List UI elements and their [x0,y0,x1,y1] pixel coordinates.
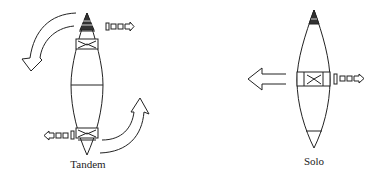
stern-paddle-stroke-icon [44,131,74,140]
straight-arrow-icon-left [248,68,286,90]
solo-label: Solo [304,155,324,167]
curved-arrow-icon-counterclockwise-top [22,13,76,71]
canoe-strokes-diagram [0,0,388,178]
solo-paddle-stroke-icon [334,74,364,84]
bow-paddle-stroke-icon [106,22,134,31]
tandem-label: Tandem [70,158,105,170]
solo-canoe [297,10,330,148]
curved-arrow-icon-counterclockwise-bottom [100,98,149,153]
tandem-canoe [71,13,103,155]
